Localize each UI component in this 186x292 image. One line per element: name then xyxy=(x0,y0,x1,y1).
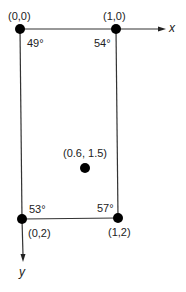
y-axis-label: y xyxy=(19,266,25,278)
temp-label-1-2: 57° xyxy=(97,202,114,214)
point-1-2-dot xyxy=(113,213,123,223)
left-edge xyxy=(20,29,22,219)
interior-point-dot xyxy=(80,163,90,173)
temp-label-1-0: 54° xyxy=(94,37,111,49)
coord-label-1-2: (1,2) xyxy=(108,226,131,238)
temp-label-0-2: 53° xyxy=(29,203,46,215)
x-axis-arrow-icon xyxy=(158,27,166,32)
coord-label-0-2: (0,2) xyxy=(28,227,51,239)
y-axis-line xyxy=(22,219,23,255)
bottom-edge xyxy=(22,218,118,219)
x-axis-label: x xyxy=(169,22,175,34)
y-axis-arrow-icon xyxy=(21,254,26,262)
point-1-0-dot xyxy=(111,24,121,34)
point-0-0-dot xyxy=(15,24,25,34)
coord-label-interior: (0.6, 1.5) xyxy=(63,147,107,159)
temp-label-0-0: 49° xyxy=(27,37,44,49)
right-edge xyxy=(116,29,118,218)
point-0-2-dot xyxy=(17,214,27,224)
coord-label-1-0: (1,0) xyxy=(103,10,126,22)
coord-label-0-0: (0,0) xyxy=(8,10,31,22)
